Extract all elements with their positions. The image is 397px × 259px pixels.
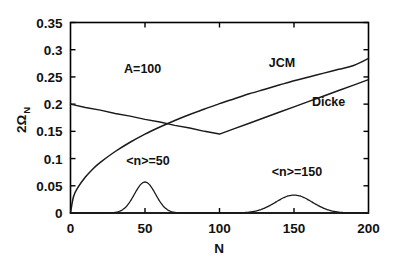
- annotation-a-100: A=100: [124, 62, 161, 76]
- chart-svg: 00.050.10.150.20.250.30.35 050100150200 …: [0, 0, 397, 259]
- y-tick-label: 0.3: [44, 43, 63, 58]
- x-tick-label: 100: [208, 221, 231, 236]
- x-tick-label: 0: [67, 221, 75, 236]
- annotation-n-150: <n>=150: [272, 165, 322, 179]
- annotation-jcm: JCM: [269, 56, 295, 70]
- y-tick-label: 0.2: [44, 97, 63, 112]
- y-tick-label: 0.35: [36, 16, 63, 31]
- x-tick-label: 150: [283, 221, 306, 236]
- y-axis-title-subscript: N: [21, 107, 32, 114]
- y-tick-label: 0.1: [44, 152, 63, 167]
- figure-container: 00.050.10.150.20.250.30.35 050100150200 …: [0, 0, 397, 259]
- annotation-n-50: <n>=50: [126, 154, 169, 168]
- y-tick-label: 0.05: [36, 179, 63, 194]
- x-tick-label: 200: [357, 221, 380, 236]
- x-axis-title: N: [214, 241, 224, 256]
- x-tick-label: 50: [137, 221, 152, 236]
- y-tick-label: 0: [55, 206, 63, 221]
- y-tick-label: 0.15: [36, 124, 63, 139]
- annotation-dicke: Dicke: [312, 95, 345, 109]
- y-axis-title-main: 2Ω: [14, 115, 29, 134]
- y-tick-label: 0.25: [36, 70, 63, 85]
